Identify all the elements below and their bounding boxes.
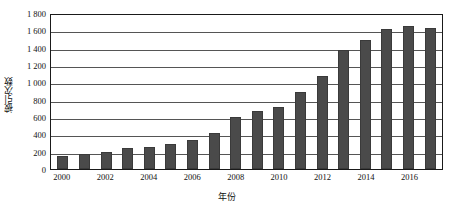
bar[interactable] xyxy=(57,156,68,169)
y-tick-label: 1 800 xyxy=(27,10,46,19)
y-tick-label: 0 xyxy=(42,166,46,175)
bar-slot xyxy=(333,15,355,169)
bar-slot xyxy=(182,15,204,169)
bar[interactable] xyxy=(79,154,90,169)
bar[interactable] xyxy=(230,117,241,169)
x-axis-title: 年份 xyxy=(0,190,453,203)
x-tick-label: 2012 xyxy=(314,172,331,182)
bar-slot xyxy=(419,15,441,169)
x-tick-label: 2014 xyxy=(357,172,374,182)
x-tick-label: 2016 xyxy=(401,172,418,182)
x-tick-label: 2008 xyxy=(227,172,244,182)
bar-slot xyxy=(138,15,160,169)
bar[interactable] xyxy=(425,28,436,169)
bar[interactable] xyxy=(403,26,414,169)
bar[interactable] xyxy=(360,40,371,169)
y-tick-label: 1 000 xyxy=(27,79,46,88)
bar[interactable] xyxy=(295,92,306,169)
y-tick-label: 400 xyxy=(33,131,46,140)
x-axis-tick-labels: 200020022004200620082010201220142016 xyxy=(50,172,443,186)
bar-series xyxy=(51,15,442,169)
y-tick-label: 800 xyxy=(33,96,46,105)
bar-slot xyxy=(311,15,333,169)
bar-chart-figure: 被引次数 02004006008001 0001 2001 4001 6001 … xyxy=(0,0,453,213)
bar-slot xyxy=(376,15,398,169)
x-tick-label: 2006 xyxy=(184,172,201,182)
bar[interactable] xyxy=(122,148,133,169)
y-axis-tick-labels: 02004006008001 0001 2001 4001 6001 800 xyxy=(12,0,48,213)
bar-slot xyxy=(117,15,139,169)
bar-slot xyxy=(398,15,420,169)
bar-slot xyxy=(203,15,225,169)
bar[interactable] xyxy=(187,140,198,169)
x-tick-label: 2010 xyxy=(271,172,288,182)
x-tick-label: 2004 xyxy=(140,172,157,182)
bar-slot xyxy=(74,15,96,169)
bar[interactable] xyxy=(209,133,220,169)
y-tick-label: 1 600 xyxy=(27,27,46,36)
plot-area xyxy=(50,14,443,170)
bar[interactable] xyxy=(101,152,112,169)
y-tick-label: 200 xyxy=(33,148,46,157)
bar[interactable] xyxy=(165,144,176,169)
bar-slot xyxy=(225,15,247,169)
x-tick-label: 2002 xyxy=(97,172,114,182)
y-tick-label: 600 xyxy=(33,114,46,123)
bar[interactable] xyxy=(144,147,155,169)
y-tick-label: 1 400 xyxy=(27,44,46,53)
bar-slot xyxy=(290,15,312,169)
x-tick-label: 2000 xyxy=(53,172,70,182)
bar[interactable] xyxy=(252,111,263,169)
bar-slot xyxy=(95,15,117,169)
bar-slot xyxy=(160,15,182,169)
bar[interactable] xyxy=(273,107,284,169)
y-tick-label: 1 200 xyxy=(27,62,46,71)
bar[interactable] xyxy=(381,29,392,169)
bar[interactable] xyxy=(317,76,328,169)
bar-slot xyxy=(246,15,268,169)
bar-slot xyxy=(355,15,377,169)
bar-slot xyxy=(268,15,290,169)
bar-slot xyxy=(52,15,74,169)
bar[interactable] xyxy=(338,50,349,169)
